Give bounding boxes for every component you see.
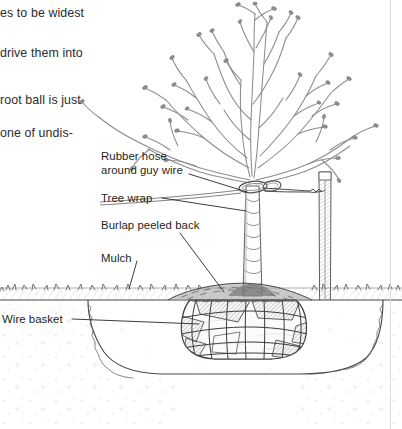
guy-wire: [264, 188, 325, 192]
leader-burlap: [180, 233, 224, 292]
mulch-ring: [168, 283, 312, 300]
tree-planting-figure: es to be widest drive them into root bal…: [0, 0, 402, 429]
callout-rubber-hose: Rubber hose around guy wire: [101, 150, 183, 177]
callout-rubber-hose-line-1: Rubber hose: [101, 150, 183, 164]
body-text-line-4: one of undis-: [0, 126, 73, 140]
callout-mulch-line-1: Mulch: [101, 252, 132, 266]
body-text-line-1: es to be widest: [0, 6, 84, 20]
leader-tree-wrap: [162, 198, 246, 211]
callout-burlap-line-1: Burlap peeled back: [101, 219, 199, 233]
tree-trunk: [243, 186, 262, 296]
root-ball: [180, 300, 308, 359]
callout-tree-wrap: Tree wrap: [101, 192, 152, 206]
callout-wire-basket: Wire basket: [2, 313, 63, 327]
callout-burlap-peeled-back: Burlap peeled back: [101, 219, 199, 233]
callout-wire-basket-line-1: Wire basket: [2, 313, 63, 327]
body-text-line-3: root ball is just: [0, 93, 81, 107]
body-text-line-2: drive them into: [0, 46, 83, 60]
callout-rubber-hose-line-2: around guy wire: [101, 164, 183, 178]
callout-tree-wrap-line-1: Tree wrap: [101, 192, 152, 206]
callout-mulch: Mulch: [101, 252, 132, 266]
planting-illustration: [0, 0, 402, 429]
